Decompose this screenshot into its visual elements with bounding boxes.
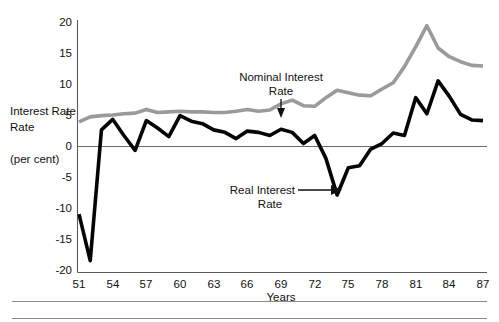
x-tick-label: 75 [342,278,355,290]
x-tick-label: 57 [140,278,153,290]
chart-canvas: 20 15 10 5 0 -5 -10 -15 -20 Interest Rat… [0,0,499,322]
nominal-annotation-arrowhead [277,108,285,118]
y-tick-labels: 20 15 10 5 0 -5 -10 -15 -20 [55,16,72,276]
y-axis-title-line1: Interest Rate [10,105,76,117]
x-tick-label: 87 [477,278,490,290]
x-tick-label: 81 [410,278,423,290]
y-tick-label: -20 [55,264,72,276]
y-tick-label: 10 [59,78,72,90]
x-tick-label: 72 [309,278,322,290]
nominal-annotation-line2: Rate [269,85,293,97]
x-tick-label: 69 [275,278,288,290]
x-tick-label: 51 [73,278,86,290]
x-tick-label: 78 [376,278,389,290]
x-tick-label: 66 [241,278,254,290]
real-interest-rate-annotation: Real Interest Rate [230,184,342,210]
y-tick-label: 0 [66,140,72,152]
x-tick-label: 84 [443,278,456,290]
x-tick-labels: 51 54 57 60 63 66 69 72 75 78 81 84 87 [73,278,490,290]
y-tick-label: -5 [62,171,72,183]
y-tick-label: 15 [59,47,72,59]
nominal-annotation-line1: Nominal Interest [239,71,324,83]
y-tick-label: -15 [55,233,72,245]
y-tick-label: -10 [55,202,72,214]
y-axis-units: (per cent) [10,153,59,165]
x-axis-title: Years [267,291,296,303]
real-annotation-line2: Rate [258,198,282,210]
x-tick-label: 63 [208,278,221,290]
y-axis-title-line2: Rate [10,121,34,133]
real-annotation-line1: Real Interest [230,184,296,196]
interest-rate-chart: 20 15 10 5 0 -5 -10 -15 -20 Interest Rat… [0,0,499,322]
x-tick-label: 54 [107,278,120,290]
x-tick-label: 60 [174,278,187,290]
y-tick-label: 20 [59,16,72,28]
